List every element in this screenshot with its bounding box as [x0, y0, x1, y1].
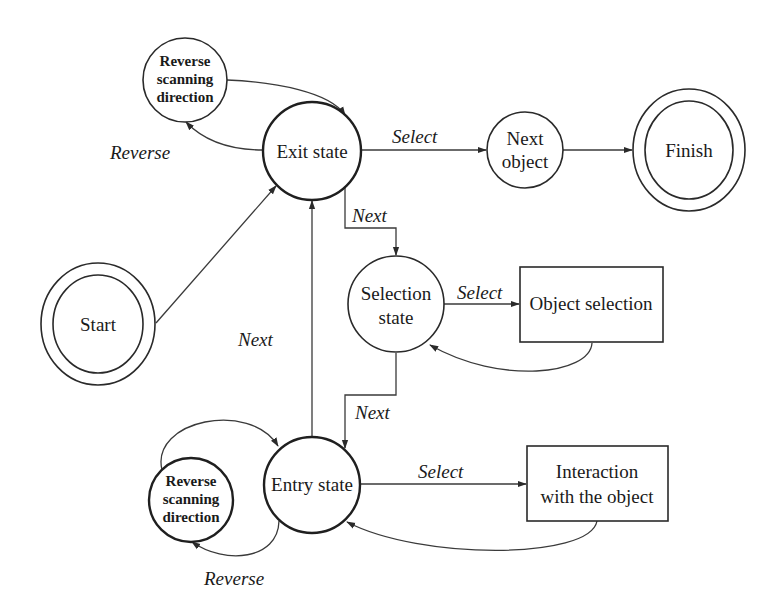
label-next-to-entry: Next — [354, 402, 391, 423]
node-reverse-top-line2: scanning — [157, 71, 214, 87]
label-next-entry-to-exit: Next — [237, 329, 274, 350]
node-reverse-scanning-bottom: Reverse scanning direction — [149, 458, 233, 542]
node-selection-state-line2: state — [379, 307, 414, 328]
node-interaction-with-object: Interaction with the object — [527, 446, 668, 521]
edge-exit-to-reverse-top — [186, 122, 263, 150]
node-selection-state-line1: Selection — [361, 283, 432, 304]
node-interaction-line1: Interaction — [556, 461, 639, 482]
label-select-interaction: Select — [418, 461, 464, 482]
edge-object-selection-to-selection — [430, 343, 592, 371]
edge-selection-to-entry — [345, 353, 396, 448]
node-interaction-line2: with the object — [541, 486, 655, 507]
node-object-selection: Object selection — [520, 267, 663, 342]
node-finish-label: Finish — [665, 140, 713, 161]
label-reverse-top: Reverse — [109, 142, 170, 163]
node-next-object: Next object — [487, 112, 563, 188]
node-entry-state: Entry state — [264, 437, 360, 533]
node-reverse-bottom-line2: scanning — [163, 491, 220, 507]
node-next-object-line2: object — [502, 151, 549, 172]
node-reverse-bottom-line1: Reverse — [166, 473, 217, 489]
node-finish: Finish — [633, 89, 745, 211]
edge-interaction-to-entry — [347, 521, 597, 550]
node-exit-state-label: Exit state — [276, 141, 347, 162]
state-diagram: Start Reverse scanning direction Exit st… — [0, 0, 778, 608]
node-entry-state-label: Entry state — [271, 474, 353, 495]
node-reverse-bottom-line3: direction — [162, 509, 220, 525]
node-start: Start — [41, 263, 155, 385]
node-start-label: Start — [80, 314, 117, 335]
node-object-selection-label: Object selection — [530, 293, 653, 314]
node-reverse-top-line3: direction — [156, 89, 214, 105]
node-exit-state: Exit state — [263, 102, 361, 200]
node-reverse-top-line1: Reverse — [160, 53, 211, 69]
node-reverse-scanning-top: Reverse scanning direction — [143, 38, 227, 122]
label-select-object-selection: Select — [457, 282, 503, 303]
label-next-to-selection: Next — [351, 205, 388, 226]
node-selection-state: Selection state — [348, 256, 444, 352]
node-next-object-line1: Next — [507, 128, 545, 149]
label-select-next-object: Select — [392, 126, 438, 147]
edge-start-to-exit — [156, 186, 276, 323]
label-reverse-bottom: Reverse — [203, 568, 264, 589]
